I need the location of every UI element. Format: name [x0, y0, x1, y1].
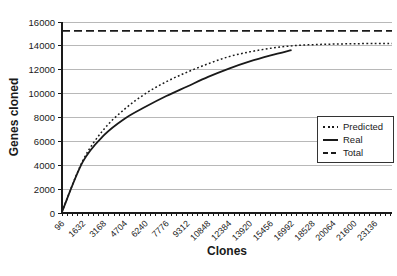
- legend-label-total: Total: [343, 148, 363, 158]
- x-tick-label-16992: 16992: [272, 218, 296, 242]
- series-line-real: [62, 50, 292, 212]
- y-tick-label-2000: 2000: [34, 184, 55, 195]
- x-tick-label-4704: 4704: [108, 218, 129, 239]
- x-tick-label-15456: 15456: [251, 218, 275, 242]
- x-tick-label-6240: 6240: [129, 218, 150, 239]
- gene-cloning-saturation-chart: 0200040006000800010000120001400016000961…: [0, 0, 397, 276]
- x-tick-label-1632: 1632: [66, 218, 87, 239]
- legend-line-sample-dotted: [323, 126, 338, 128]
- legend: PredictedRealTotal: [317, 116, 394, 163]
- y-tick-label-4000: 4000: [34, 160, 55, 171]
- x-tick-label-3168: 3168: [87, 218, 108, 239]
- legend-item-real: Real: [323, 135, 388, 145]
- x-tick-label-10848: 10848: [188, 218, 212, 242]
- x-tick-label-21600: 21600: [334, 218, 358, 242]
- x-tick-label-20064: 20064: [313, 218, 337, 242]
- x-tick-label-12384: 12384: [209, 218, 233, 242]
- x-tick-label-18528: 18528: [292, 218, 316, 242]
- x-tick-label-7776: 7776: [150, 218, 171, 239]
- y-tick-label-8000: 8000: [34, 112, 55, 123]
- y-tick-label-12000: 12000: [29, 64, 55, 75]
- y-tick-label-14000: 14000: [29, 40, 55, 51]
- legend-item-total: Total: [323, 148, 388, 158]
- legend-line-sample-dashed: [323, 152, 338, 154]
- y-tick-label-16000: 16000: [29, 17, 55, 28]
- legend-line-sample-solid: [323, 139, 338, 141]
- legend-label-real: Real: [343, 135, 363, 145]
- x-tick-label-96: 96: [52, 218, 66, 232]
- x-tick-label-23136: 23136: [355, 218, 379, 242]
- y-tick-label-10000: 10000: [29, 88, 55, 99]
- legend-item-predicted: Predicted: [323, 122, 388, 132]
- y-tick-label-0: 0: [50, 208, 55, 219]
- y-tick-label-6000: 6000: [34, 136, 55, 147]
- y-axis-title: Genes cloned: [7, 78, 21, 157]
- legend-label-predicted: Predicted: [343, 122, 383, 132]
- x-tick-label-13920: 13920: [230, 218, 254, 242]
- x-axis-title: Clones: [207, 244, 247, 258]
